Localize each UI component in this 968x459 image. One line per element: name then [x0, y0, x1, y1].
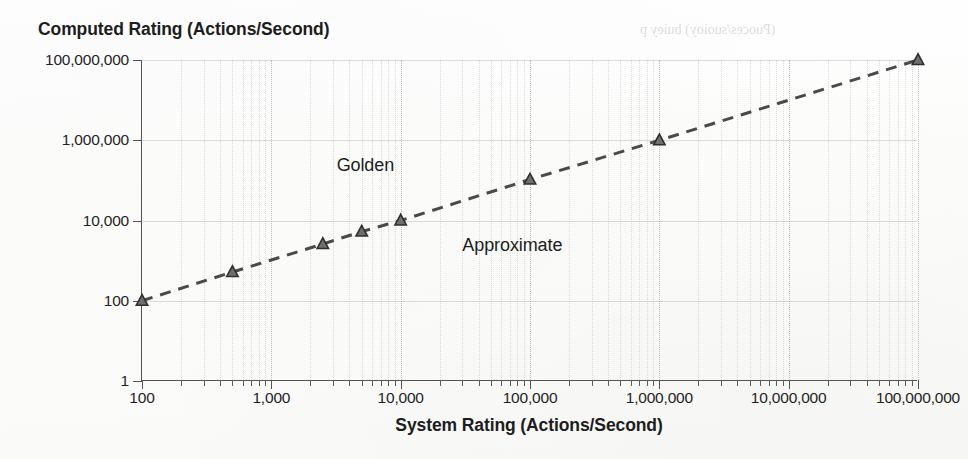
- vertical-gridline: [918, 60, 919, 380]
- x-axis-tick-label: 10,000: [378, 389, 424, 407]
- plot-area: 110010,0001,000,000100,000,0001001,00010…: [141, 60, 917, 381]
- data-point-marker: [654, 134, 665, 145]
- x-axis-title: System Rating (Actions/Second): [141, 415, 917, 436]
- y-axis-tick-label: 100,000,000: [45, 51, 129, 69]
- region-label-golden: Golden: [337, 155, 394, 176]
- x-axis-tick-label: 10,000,000: [751, 389, 827, 407]
- y-axis-tick-label: 10,000: [83, 212, 129, 230]
- x-axis-tick: [401, 380, 402, 389]
- data-point-marker: [912, 54, 923, 65]
- x-axis-tick: [918, 380, 919, 389]
- x-axis-tick: [789, 380, 790, 389]
- y-axis-tick-label: 100: [104, 292, 129, 310]
- chart-figure: Computed Rating (Actions/Second) 110010,…: [0, 0, 968, 459]
- y-axis-tick: [133, 140, 142, 141]
- x-axis-tick: [271, 380, 272, 389]
- data-point-marker: [524, 173, 535, 184]
- region-label-approximate: Approximate: [462, 235, 562, 256]
- y-axis-title: Computed Rating (Actions/Second): [38, 19, 329, 40]
- y-axis-tick: [133, 60, 142, 61]
- x-axis-tick-label: 100,000,000: [876, 389, 960, 407]
- series-layer: [142, 60, 918, 381]
- x-axis-tick-label: 100,000: [503, 389, 558, 407]
- x-axis-tick: [530, 380, 531, 389]
- x-axis-tick-label: 100: [129, 389, 154, 407]
- x-axis-tick: [142, 380, 143, 389]
- y-axis-tick-label: 1: [121, 372, 129, 390]
- y-axis-tick: [133, 221, 142, 222]
- x-axis-tick: [659, 380, 660, 389]
- y-axis-tick-label: 1,000,000: [62, 131, 129, 149]
- x-axis-tick-label: 1,000: [252, 389, 290, 407]
- x-axis-tick-label: 1,000,000: [626, 389, 693, 407]
- y-axis-tick: [133, 381, 142, 382]
